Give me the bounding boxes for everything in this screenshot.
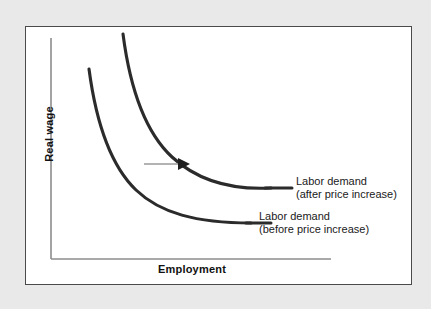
x-axis-title: Employment [158, 263, 226, 275]
labor-demand-chart [26, 27, 413, 286]
labor-demand-after-curve [123, 34, 271, 188]
labor-demand-before-label: Labor demand (before price increase) [259, 210, 369, 236]
labor-demand-before-label-line1: Labor demand [259, 210, 369, 223]
rightward-shift-arrow [144, 158, 190, 170]
labor-demand-after-label: Labor demand (after price increase) [296, 175, 397, 201]
labor-demand-after-label-line2: (after price increase) [296, 188, 397, 201]
labor-demand-before-label-line2: (before price increase) [259, 223, 369, 236]
y-axis-title: Real wage [43, 94, 55, 174]
labor-demand-before-curve [89, 69, 251, 223]
labor-demand-after-label-line1: Labor demand [296, 175, 397, 188]
figure-panel: Real wage Employment Labor demand (after… [25, 26, 412, 285]
